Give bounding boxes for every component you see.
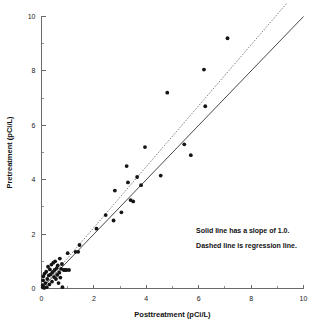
x-tick-label: 4 (144, 295, 148, 302)
data-point (165, 91, 169, 95)
y-tick-label: 6 (32, 122, 36, 129)
y-axis-title: Pretreatment (pCi/L) (5, 116, 14, 189)
data-point (226, 36, 230, 40)
annotation-dashed-line: Dashed line is regression line. (196, 242, 297, 250)
y-tick-label: 8 (32, 67, 36, 74)
data-point (202, 68, 206, 72)
data-point (126, 181, 130, 185)
data-point (125, 164, 129, 168)
data-point (104, 213, 108, 217)
y-tick-label: 2 (32, 231, 36, 238)
data-point (67, 268, 71, 272)
data-point (113, 189, 117, 193)
y-tick-label: 0 (32, 285, 36, 292)
data-point (95, 227, 99, 231)
x-tick-label: 0 (40, 295, 44, 302)
data-point (78, 243, 82, 247)
data-point (61, 285, 65, 289)
data-point (143, 145, 147, 149)
data-point (58, 257, 62, 261)
y-tick-label: 10 (28, 13, 36, 20)
data-point (112, 219, 116, 223)
data-point (189, 153, 193, 157)
data-point (139, 183, 143, 187)
data-point (44, 270, 48, 274)
data-point (53, 259, 57, 263)
x-tick-label: 8 (249, 295, 253, 302)
data-point (182, 142, 186, 146)
scatter-plot-figure: 02468100246810 Posttreatment (pCi/L) Pre… (0, 0, 324, 325)
data-point (57, 271, 61, 275)
x-tick-label: 2 (92, 295, 96, 302)
data-point (76, 250, 80, 254)
data-point (66, 251, 70, 255)
data-point (159, 174, 163, 178)
data-point (56, 263, 60, 267)
data-point (135, 175, 139, 179)
data-point (203, 104, 207, 108)
x-axis-title: Posttreatment (pCi/L) (134, 310, 211, 319)
data-point (120, 210, 124, 214)
data-point (54, 277, 58, 281)
x-tick-label: 6 (197, 295, 201, 302)
data-point (131, 200, 135, 204)
annotation-solid-line: Solid line has a slope of 1.0. (196, 227, 289, 235)
y-tick-label: 4 (32, 176, 36, 183)
data-point (57, 281, 61, 285)
data-point (45, 277, 49, 281)
data-point (50, 280, 54, 284)
data-point-group (41, 36, 230, 289)
plot-canvas: 02468100246810 Posttreatment (pCi/L) Pre… (0, 0, 324, 325)
data-point (58, 276, 62, 280)
data-point (60, 262, 64, 266)
x-tick-label: 10 (300, 295, 308, 302)
data-point (44, 281, 48, 285)
